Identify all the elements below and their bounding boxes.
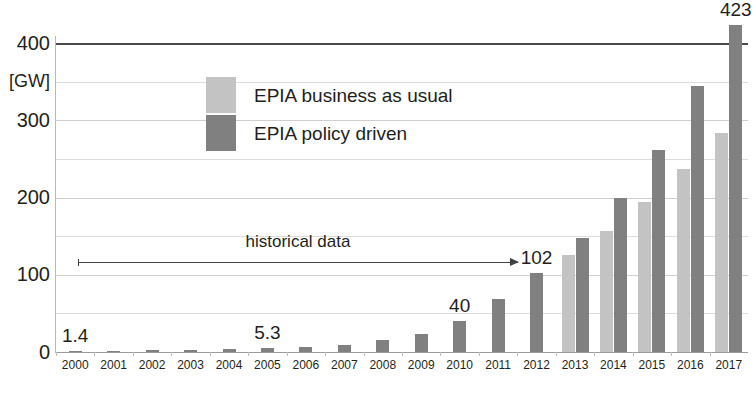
- bar-policy-driven-2009: [415, 334, 428, 352]
- x-tickmark: [325, 352, 326, 356]
- legend-swatch-icon: [206, 77, 236, 113]
- x-tick-label-2002: 2002: [139, 358, 166, 372]
- x-tick-label-2000: 2000: [62, 358, 89, 372]
- y-tick-label-0: 0: [2, 342, 50, 362]
- x-tickmark: [633, 352, 634, 356]
- x-tickmark: [594, 352, 595, 356]
- bar-policy-driven-2003: [184, 350, 197, 352]
- x-tickmark: [94, 352, 95, 356]
- bar-business-as-usual-2017: [715, 133, 728, 352]
- value-label-2012: 102: [521, 248, 553, 267]
- y-axis-labels: 400 [GW] 300 200 100 0: [0, 0, 50, 393]
- bar-policy-driven-2014: [614, 198, 627, 352]
- gridline-200: [56, 198, 748, 199]
- x-tickmark: [171, 352, 172, 356]
- bar-policy-driven-2012: [530, 273, 543, 352]
- y-axis-unit-label: [GW]: [0, 72, 50, 90]
- bar-policy-driven-2007: [338, 345, 351, 352]
- x-tick-label-2012: 2012: [523, 358, 550, 372]
- bar-policy-driven-2011: [492, 299, 505, 352]
- x-tick-label-2008: 2008: [369, 358, 396, 372]
- x-tick-label-2009: 2009: [408, 358, 435, 372]
- x-tickmark: [671, 352, 672, 356]
- x-tick-label-2017: 2017: [715, 358, 742, 372]
- x-tick-label-2011: 2011: [485, 358, 511, 372]
- bar-business-as-usual-2015: [638, 202, 651, 352]
- legend-item-policy-driven: EPIA policy driven: [206, 114, 453, 152]
- bar-policy-driven-2006: [299, 347, 312, 352]
- value-label-2005: 5.3: [254, 323, 280, 342]
- bar-business-as-usual-2013: [562, 255, 575, 352]
- x-tick-label-2014: 2014: [600, 358, 627, 372]
- bar-policy-driven-2015: [652, 150, 665, 352]
- y-tick-label-400: 400: [2, 33, 50, 53]
- x-tickmark: [402, 352, 403, 356]
- gridline-250: [56, 159, 748, 160]
- x-tick-label-2005: 2005: [254, 358, 281, 372]
- x-tickmark: [248, 352, 249, 356]
- x-tickmark: [210, 352, 211, 356]
- x-tick-label-2004: 2004: [216, 358, 243, 372]
- x-tickmark: [56, 352, 57, 356]
- bar-policy-driven-2013: [576, 238, 589, 352]
- legend-label: EPIA policy driven: [254, 124, 407, 143]
- gridline-400: [56, 43, 748, 45]
- bar-policy-driven-2001: [107, 351, 120, 352]
- bar-policy-driven-2005: [261, 348, 274, 352]
- x-tickmark: [133, 352, 134, 356]
- x-tick-label-2016: 2016: [677, 358, 704, 372]
- x-tickmark: [710, 352, 711, 356]
- x-tick-label-2015: 2015: [639, 358, 666, 372]
- legend-swatch-icon: [206, 115, 236, 151]
- legend-label: EPIA business as usual: [254, 86, 453, 105]
- x-tickmark: [364, 352, 365, 356]
- x-tickmark: [479, 352, 480, 356]
- bar-business-as-usual-2016: [677, 169, 690, 352]
- bar-policy-driven-2016: [691, 86, 704, 353]
- annotation-label: historical data: [78, 232, 518, 251]
- x-tick-label-2013: 2013: [562, 358, 589, 372]
- y-tick-label-100: 100: [2, 264, 50, 284]
- bar-policy-driven-2004: [223, 349, 236, 352]
- x-tickmark: [556, 352, 557, 356]
- x-tick-label-2007: 2007: [331, 358, 358, 372]
- bar-policy-driven-2017: [729, 25, 742, 352]
- legend-item-business-as-usual: EPIA business as usual: [206, 76, 453, 114]
- bar-policy-driven-2010: [453, 321, 466, 352]
- x-tick-label-2010: 2010: [446, 358, 473, 372]
- arrow-right-icon: [78, 258, 518, 268]
- y-tick-label-300: 300: [2, 110, 50, 130]
- chart-container: 400 [GW] 300 200 100 0 20002001200220032…: [0, 0, 756, 393]
- x-tickmark: [517, 352, 518, 356]
- x-tickmark: [440, 352, 441, 356]
- bar-policy-driven-2000: [69, 351, 82, 352]
- x-tick-label-2001: 2001: [100, 358, 127, 372]
- chart-legend: EPIA business as usual EPIA policy drive…: [206, 76, 453, 152]
- value-label-2010: 40: [449, 296, 470, 315]
- value-label-2000: 1.4: [62, 326, 88, 345]
- bar-business-as-usual-2014: [600, 231, 613, 352]
- historical-data-annotation: historical data: [78, 232, 518, 268]
- y-tick-label-200: 200: [2, 187, 50, 207]
- value-label-2017: 423: [720, 0, 752, 19]
- bar-policy-driven-2002: [146, 350, 159, 352]
- bar-policy-driven-2008: [376, 340, 389, 352]
- x-tick-label-2006: 2006: [293, 358, 320, 372]
- x-tickmark: [287, 352, 288, 356]
- x-tick-label-2003: 2003: [177, 358, 204, 372]
